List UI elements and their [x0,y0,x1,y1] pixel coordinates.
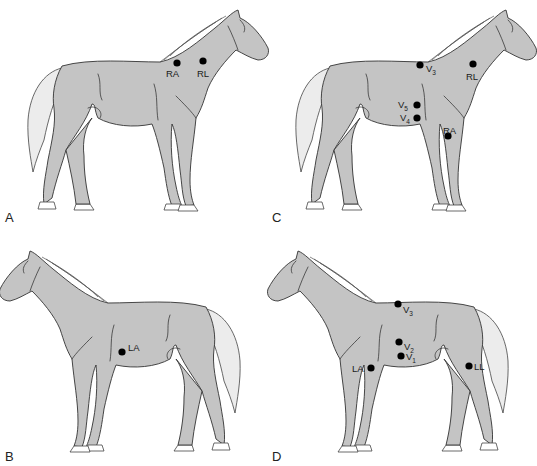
electrode-label-ra: RA [443,125,457,136]
electrode-overlay: RARLV3RLV5V4RALAV3V2V1LALL [0,0,537,466]
electrode-label-la: LA [128,342,140,353]
electrode-label-v4: V4 [400,112,410,125]
electrode-dot-v5 [413,101,420,108]
electrode-dot-rl [469,60,476,67]
electrode-dot-ra [173,59,180,66]
electrode-label-v1: V1 [406,351,416,364]
electrode-label-ra: RA [166,68,180,79]
electrode-dot-rl [199,57,206,64]
electrode-dot-v3 [394,300,401,307]
electrode-dot-la [367,364,374,371]
electrode-dot-v3 [416,61,423,68]
electrode-label-v3: V3 [403,304,413,317]
electrode-dot-v4 [413,114,420,121]
electrode-label-rl: RL [197,68,209,79]
electrode-dot-la [118,348,125,355]
electrode-dot-v1 [397,352,404,359]
electrode-label-rl: RL [466,71,478,82]
electrode-label-ll: LL [474,361,485,372]
electrode-dot-ll [465,362,472,369]
electrode-dot-v2 [395,338,402,345]
electrode-label-v3: V3 [426,63,436,76]
electrode-label-v5: V5 [398,99,408,112]
electrode-label-la: LA [352,363,364,374]
